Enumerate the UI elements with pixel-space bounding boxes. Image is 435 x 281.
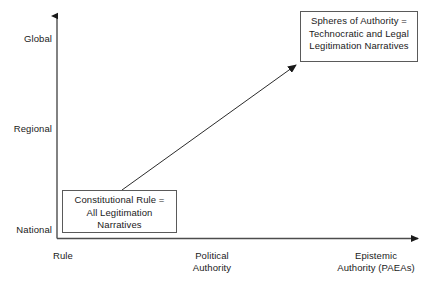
- callout-spheres-of-authority-line3: Legitimation Narratives: [305, 40, 413, 53]
- callout-spheres-of-authority-line2: Technocratic and Legal: [305, 28, 413, 41]
- x-axis-label-epistemic-authority-line2: Authority (PAEAs): [320, 262, 432, 274]
- callout-constitutional-rule: Constitutional Rule = All Legitimation N…: [62, 190, 177, 233]
- callout-spheres-of-authority-line1: Spheres of Authority =: [305, 15, 413, 28]
- x-axis-label-political-authority: Political Authority: [170, 250, 254, 274]
- x-axis-label-epistemic-authority-line1: Epistemic: [320, 250, 432, 262]
- callout-spheres-of-authority: Spheres of Authority = Technocratic and …: [300, 11, 418, 62]
- progression-arrow: [122, 65, 296, 190]
- y-axis-label-global: Global: [4, 33, 52, 45]
- callout-constitutional-rule-line2: All Legitimation: [67, 207, 172, 220]
- x-axis-label-epistemic-authority: Epistemic Authority (PAEAs): [320, 250, 432, 274]
- y-axis-label-regional: Regional: [4, 123, 52, 135]
- authority-diagram: Global Regional National Rule Political …: [0, 0, 435, 281]
- callout-constitutional-rule-line1: Constitutional Rule =: [67, 194, 172, 207]
- x-axis-label-rule: Rule: [38, 250, 88, 262]
- x-axis-label-rule-line1: Rule: [38, 250, 88, 262]
- y-axis-label-national: National: [0, 224, 52, 236]
- x-axis-label-political-authority-line1: Political: [170, 250, 254, 262]
- callout-constitutional-rule-line3: Narratives: [67, 219, 172, 232]
- x-axis-label-political-authority-line2: Authority: [170, 262, 254, 274]
